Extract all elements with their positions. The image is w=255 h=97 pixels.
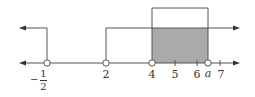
label-7: 7 [218,69,225,80]
label-2: 2 [103,69,110,80]
left-ray [24,28,47,63]
denominator: 2 [40,82,47,92]
axis-arrow-left-icon [19,61,26,66]
shaded-region [152,28,208,63]
open-point-2 [103,60,109,66]
minus-sign: − [30,75,38,85]
open-point-neg-half [44,60,50,66]
arrow-right-icon [233,26,240,31]
arrow-left-icon [19,26,26,31]
label-4: 4 [149,69,156,80]
open-point-a [205,60,211,66]
label-neg-half: − 1 2 [30,69,47,92]
axis-arrow-right-icon [233,61,240,66]
label-6: 6 [194,69,201,80]
numerator: 1 [40,69,47,79]
label-a: a [205,68,212,79]
open-point-4 [149,60,155,66]
label-5: 5 [172,69,179,80]
